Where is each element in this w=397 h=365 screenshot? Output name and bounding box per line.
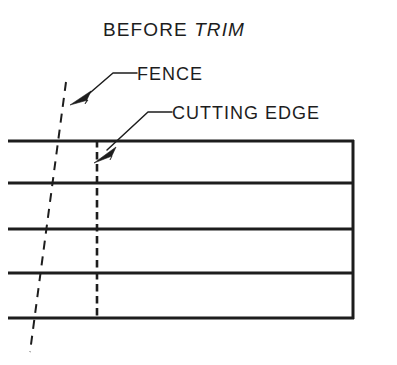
fence-line — [30, 82, 66, 352]
trim-diagram-figure: BEFORE TRIM FENCE CUTTING EDGE — [0, 0, 397, 365]
board-horizontal-lines — [8, 141, 354, 318]
diagram-canvas: BEFORE TRIM FENCE CUTTING EDGE — [0, 0, 397, 365]
title-before: BEFORE — [103, 19, 188, 40]
fence-label: FENCE — [137, 64, 203, 84]
callout-cutting-edge: CUTTING EDGE — [94, 103, 320, 163]
diagram-title: BEFORE TRIM — [103, 19, 245, 40]
title-trim: TRIM — [194, 19, 245, 40]
callout-fence: FENCE — [70, 64, 203, 105]
fence-leader-line — [84, 73, 137, 98]
cutting-edge-label: CUTTING EDGE — [172, 103, 320, 123]
fence-arrow-head — [70, 91, 91, 105]
cutting-edge-leader-line — [107, 112, 172, 150]
